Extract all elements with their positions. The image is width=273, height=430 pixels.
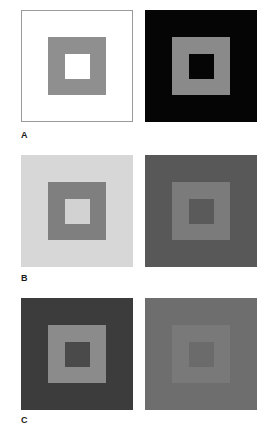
stimulus-row-b: B — [0, 145, 273, 288]
center-square-b-right — [189, 199, 214, 224]
center-square-a-right — [189, 54, 214, 79]
annulus-a-right — [172, 37, 230, 95]
center-square-c-right — [189, 342, 214, 367]
stimulus-a-left — [21, 10, 133, 122]
row-label-c: C — [21, 416, 28, 425]
stimulus-row-c: C — [0, 288, 273, 430]
row-label-a: A — [21, 131, 28, 140]
stimulus-a-right — [145, 10, 257, 122]
annulus-c-left — [48, 325, 106, 383]
row-label-b: B — [21, 274, 28, 283]
center-square-a-left — [65, 54, 90, 79]
stimulus-c-left — [21, 298, 133, 410]
annulus-b-left — [48, 182, 106, 240]
center-square-c-left — [65, 342, 90, 367]
center-square-b-left — [65, 199, 90, 224]
annulus-b-right — [172, 182, 230, 240]
stimulus-row-a: A — [0, 0, 273, 145]
stimulus-b-left — [21, 155, 133, 267]
annulus-c-right — [172, 325, 230, 383]
figure-canvas: A B C — [0, 0, 273, 430]
stimulus-c-right — [145, 298, 257, 410]
annulus-a-left — [48, 37, 106, 95]
stimulus-b-right — [145, 155, 257, 267]
